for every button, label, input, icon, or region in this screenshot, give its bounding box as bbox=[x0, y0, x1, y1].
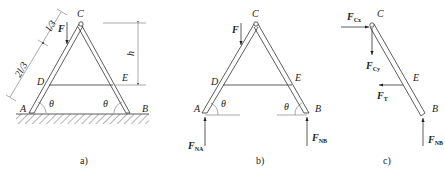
point-a: A bbox=[193, 103, 201, 114]
point-c: C bbox=[252, 8, 259, 19]
angle-theta-a: θ bbox=[49, 98, 54, 109]
point-c: C bbox=[377, 8, 384, 19]
angle-theta-b: θ bbox=[284, 101, 289, 112]
point-a: A bbox=[19, 103, 27, 114]
caption-b: b) bbox=[256, 155, 264, 167]
caption-c: c) bbox=[383, 155, 391, 167]
point-d: D bbox=[36, 76, 45, 87]
point-b: B bbox=[142, 103, 148, 114]
force-t-label: FT bbox=[376, 90, 388, 102]
figure-a: F θ θ A B C D E l/3 2l/3 h a) bbox=[6, 8, 149, 167]
force-cx-label: FCx bbox=[346, 11, 361, 23]
force-f-label: F bbox=[57, 23, 65, 34]
angle-arc-b bbox=[295, 103, 302, 115]
force-cy-label: FCy bbox=[365, 60, 380, 72]
dim-height-label: h bbox=[125, 51, 136, 56]
point-d: D bbox=[210, 76, 219, 87]
dim-lower-label: 2l/3 bbox=[12, 60, 29, 79]
caption-a: a) bbox=[80, 155, 88, 167]
point-b: B bbox=[315, 103, 321, 114]
point-e: E bbox=[121, 72, 128, 83]
point-e: E bbox=[412, 72, 419, 83]
hinge-c bbox=[79, 22, 83, 26]
hinge-c bbox=[370, 23, 374, 27]
point-c: C bbox=[77, 8, 84, 19]
angle-theta-b: θ bbox=[103, 98, 108, 109]
bar-ac bbox=[202, 24, 258, 113]
bar-ac bbox=[29, 24, 83, 113]
bar-cb bbox=[254, 24, 309, 113]
point-e: E bbox=[294, 72, 301, 83]
ground-hatch bbox=[16, 114, 149, 124]
angle-theta-a: θ bbox=[221, 98, 226, 109]
point-b: B bbox=[432, 103, 438, 114]
statics-diagram: F θ θ A B C D E l/3 2l/3 h a) bbox=[0, 0, 445, 170]
reaction-nb-label: FNB bbox=[311, 132, 327, 144]
reaction-nb-label: FNB bbox=[427, 134, 443, 146]
figure-c: FCx C FCy FT E B FNB c) bbox=[341, 8, 443, 167]
force-f-label: F bbox=[231, 24, 239, 35]
reaction-na-label: FNA bbox=[187, 140, 204, 152]
figure-b: F θ θ FNA FNB A B C D E b) bbox=[187, 8, 327, 167]
hinge-c bbox=[254, 22, 258, 26]
